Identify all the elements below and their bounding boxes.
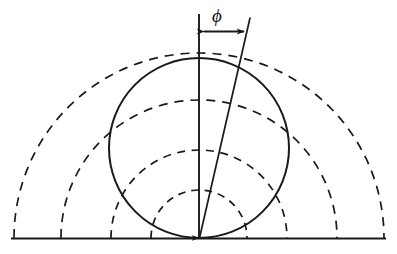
- diagram-canvas: ϕ: [0, 0, 397, 254]
- tilt-ray: [200, 18, 251, 238]
- diagram-svg: [0, 0, 397, 254]
- phi-angle-label: ϕ: [212, 6, 222, 25]
